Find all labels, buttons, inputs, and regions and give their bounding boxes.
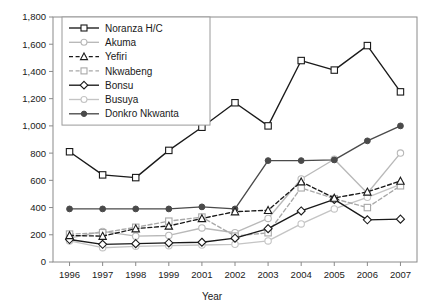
data-point-marker <box>397 177 404 184</box>
legend-label: Akuma <box>105 37 137 48</box>
series-line <box>70 126 401 209</box>
data-point-marker <box>397 89 403 95</box>
data-point-marker <box>67 206 73 212</box>
x-tick-label: 2003 <box>258 269 279 280</box>
legend-label: Bonsu <box>105 80 133 91</box>
data-point-marker <box>265 123 271 129</box>
data-point-marker <box>363 216 371 224</box>
data-point-marker <box>133 206 139 212</box>
data-point-marker <box>81 111 86 116</box>
x-tick-label: 2002 <box>224 269 245 280</box>
data-point-marker <box>364 204 370 210</box>
data-point-marker <box>331 67 337 73</box>
x-axis-title: Year <box>202 291 223 302</box>
y-tick-label: 1,800 <box>22 11 46 22</box>
data-point-marker <box>298 57 304 63</box>
y-axis-ticks: 02004006008001,0001,2001,4001,6001,800 <box>22 11 53 267</box>
x-tick-label: 1999 <box>158 269 179 280</box>
x-tick-label: 1997 <box>92 269 113 280</box>
data-point-marker <box>133 174 139 180</box>
data-point-marker <box>81 25 87 31</box>
data-point-marker <box>331 206 337 212</box>
y-tick-label: 0 <box>41 256 46 267</box>
x-tick-label: 2005 <box>324 269 345 280</box>
data-point-marker <box>265 215 271 221</box>
data-point-marker <box>100 206 106 212</box>
data-point-marker <box>166 232 172 238</box>
data-point-marker <box>232 100 238 106</box>
x-axis-ticks: 1996199719981999200120022003200420052006… <box>59 262 411 280</box>
data-point-marker <box>397 150 403 156</box>
data-point-marker <box>298 185 304 191</box>
data-point-marker <box>81 39 87 45</box>
x-tick-label: 2006 <box>357 269 378 280</box>
data-point-marker <box>331 157 337 163</box>
series-akuma <box>66 150 403 241</box>
data-point-marker <box>166 147 172 153</box>
y-tick-label: 1,600 <box>22 39 46 50</box>
x-tick-label: 1996 <box>59 269 80 280</box>
y-tick-label: 1,400 <box>22 66 46 77</box>
series-donkro-nkwanta <box>67 123 404 212</box>
y-tick-label: 800 <box>30 148 46 159</box>
legend-label: Busuya <box>105 94 139 105</box>
data-point-marker <box>364 138 370 144</box>
y-tick-label: 1,000 <box>22 120 46 131</box>
chart-legend: Noranza H/CAkumaYefiriNkwabengBonsuBusuy… <box>62 17 210 125</box>
legend-label: Yefiri <box>105 51 127 62</box>
data-point-marker <box>81 68 87 74</box>
y-tick-label: 400 <box>30 202 46 213</box>
data-point-marker <box>364 42 370 48</box>
data-point-marker <box>265 238 271 244</box>
data-point-marker <box>298 158 304 164</box>
data-point-marker <box>66 149 72 155</box>
data-point-marker <box>396 215 404 223</box>
legend-label: Nkwabeng <box>105 66 152 77</box>
y-tick-label: 1,200 <box>22 93 46 104</box>
data-point-marker <box>133 233 139 239</box>
chart-container: 02004006008001,0001,2001,4001,6001,800 1… <box>0 0 425 308</box>
y-tick-label: 600 <box>30 175 46 186</box>
legend-label: Donkro Nkwanta <box>105 108 179 119</box>
series-bonsu <box>66 195 405 248</box>
data-point-marker <box>297 207 305 215</box>
data-point-marker <box>199 225 205 231</box>
line-chart: 02004006008001,0001,2001,4001,6001,800 1… <box>0 0 425 308</box>
legend-label: Noranza H/C <box>105 23 163 34</box>
data-point-marker <box>81 97 87 103</box>
y-tick-label: 200 <box>30 229 46 240</box>
x-tick-label: 2007 <box>390 269 411 280</box>
x-tick-label: 1998 <box>125 269 146 280</box>
data-point-marker <box>166 206 172 212</box>
data-point-marker <box>199 204 205 210</box>
x-tick-label: 2004 <box>291 269 312 280</box>
data-point-marker <box>298 221 304 227</box>
data-point-marker <box>398 123 404 129</box>
x-tick-label: 2001 <box>191 269 212 280</box>
data-point-marker <box>99 172 105 178</box>
data-point-marker <box>265 158 271 164</box>
